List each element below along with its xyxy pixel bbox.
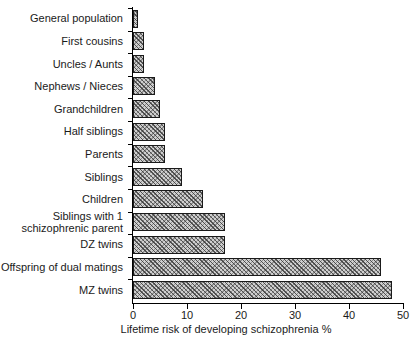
category-label: Siblings with 1 schizophrenic parent <box>0 211 128 234</box>
category-tick <box>128 189 132 190</box>
category-tick <box>128 144 132 145</box>
category-tick <box>128 53 132 54</box>
bar-row <box>133 31 403 54</box>
category-tick <box>128 212 132 213</box>
bar <box>133 55 144 73</box>
bar <box>133 190 203 208</box>
category-tick <box>128 166 132 167</box>
x-tick-label: 10 <box>167 309 207 322</box>
bar-row <box>133 166 403 189</box>
bar-row <box>133 212 403 235</box>
category-label: Parents <box>0 149 128 161</box>
category-label: Children <box>0 194 128 206</box>
bar-row <box>133 98 403 121</box>
bar-row <box>133 257 403 280</box>
category-label: Nephews / Nieces <box>0 81 128 93</box>
x-tick-label: 20 <box>221 309 261 322</box>
category-tick <box>128 76 132 77</box>
category-label: DZ twins <box>0 239 128 251</box>
bar <box>133 10 138 28</box>
x-tick-label: 30 <box>275 309 315 322</box>
bar-row <box>133 53 403 76</box>
category-label: Uncles / Aunts <box>0 59 128 71</box>
bar-row <box>133 189 403 212</box>
x-axis-spine <box>132 303 404 304</box>
category-tick <box>128 98 132 99</box>
bar <box>133 145 165 163</box>
bar <box>133 281 392 299</box>
category-label: Siblings <box>0 172 128 184</box>
category-tick <box>128 257 132 258</box>
category-label: Half siblings <box>0 126 128 138</box>
category-label: Grandchildren <box>0 104 128 116</box>
category-label: MZ twins <box>0 285 128 297</box>
x-axis-title-text: Lifetime risk of developing schizophreni… <box>121 323 332 335</box>
bar-chart-figure: General populationFirst cousinsUncles / … <box>0 0 418 342</box>
plot-area <box>133 8 403 302</box>
bar <box>133 168 182 186</box>
bar <box>133 77 155 95</box>
bar <box>133 213 225 231</box>
bar-row <box>133 8 403 31</box>
bar-row <box>133 279 403 302</box>
category-tick <box>128 31 132 32</box>
bar <box>133 258 381 276</box>
category-label: First cousins <box>0 36 128 48</box>
bar-row <box>133 144 403 167</box>
category-label: General population <box>0 13 128 25</box>
bar-row <box>133 76 403 99</box>
bar-row <box>133 121 403 144</box>
x-tick-label: 0 <box>113 309 153 322</box>
bar <box>133 100 160 118</box>
category-tick <box>128 121 132 122</box>
category-tick <box>128 279 132 280</box>
bar <box>133 123 165 141</box>
x-tick-label: 40 <box>329 309 369 322</box>
bar-row <box>133 234 403 257</box>
bar <box>133 32 144 50</box>
x-axis-title: Lifetime risk of developing schizophreni… <box>0 323 418 335</box>
category-label: Offspring of dual matings <box>0 262 128 274</box>
category-tick <box>128 8 132 9</box>
category-tick <box>128 234 132 235</box>
bar <box>133 236 225 254</box>
x-tick-label: 50 <box>383 309 418 322</box>
